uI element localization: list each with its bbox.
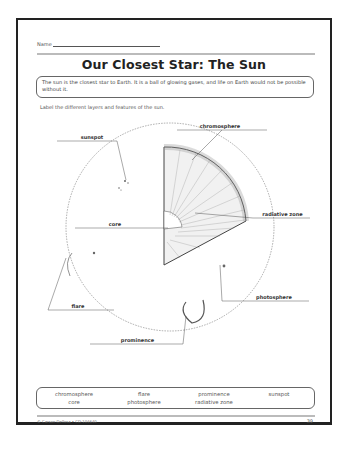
sun-diagram <box>0 0 342 454</box>
label-flare: flare <box>63 303 93 309</box>
label-prominence: prominence <box>110 337 165 343</box>
label-chromosphere: chromosphere <box>190 123 250 129</box>
label-core: core <box>100 221 130 227</box>
label-photosphere: photosphere <box>244 294 304 300</box>
label-radiative-zone: radiative zone <box>255 211 310 217</box>
flare-shape <box>67 253 72 276</box>
cutaway-wedge <box>164 147 246 265</box>
prominence-shape <box>183 300 204 323</box>
label-sunspot: sunspot <box>72 134 112 140</box>
